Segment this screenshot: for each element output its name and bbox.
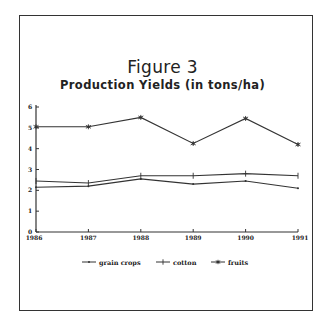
- y-tick-label: 3: [28, 166, 32, 173]
- dot-marker-icon: [192, 183, 194, 185]
- dot-marker-icon: [297, 187, 299, 189]
- series-lines: [34, 115, 301, 189]
- dot-marker-icon: [245, 180, 247, 182]
- series-cotton: [36, 171, 298, 186]
- series-line: [36, 179, 298, 188]
- x-tick-label: 1990: [237, 234, 254, 241]
- legend-label: grain crops: [99, 259, 141, 267]
- legend-item: fruits: [211, 259, 248, 267]
- y-tick-label: 6: [28, 103, 32, 110]
- legend: grain cropscottonfruits: [82, 259, 248, 267]
- x-tick-label: 1988: [132, 234, 149, 241]
- legend-label: fruits: [228, 259, 248, 267]
- x-tick-label: 1986: [26, 234, 43, 241]
- legend-item: grain crops: [82, 259, 141, 267]
- x-tick-label: 1989: [185, 234, 202, 241]
- legend-item: cotton: [156, 259, 197, 267]
- series-line: [36, 117, 298, 144]
- y-tick-label: 4: [28, 145, 32, 152]
- asterisk-marker-icon: [243, 116, 248, 121]
- legend-label: cotton: [173, 259, 197, 267]
- x-tick-label: 1991: [292, 234, 309, 241]
- asterisk-marker-icon: [296, 142, 301, 147]
- axes: 0123456198619871988198919901991: [26, 103, 309, 241]
- y-tick-label: 2: [28, 186, 32, 193]
- asterisk-marker-icon: [191, 141, 196, 146]
- series-grain-crops: [35, 178, 299, 189]
- dot-marker-icon: [35, 186, 37, 188]
- y-tick-label: 5: [28, 124, 32, 131]
- y-tick-label: 1: [28, 207, 32, 214]
- x-tick-label: 1987: [80, 234, 97, 241]
- line-chart: 0123456198619871988198919901991 grain cr…: [0, 0, 325, 325]
- dot-marker-icon: [88, 261, 90, 263]
- series-fruits: [34, 115, 301, 147]
